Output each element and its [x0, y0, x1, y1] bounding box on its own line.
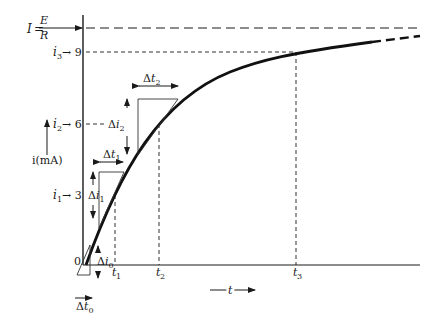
- svg-text:→ 6: → 6: [62, 118, 82, 131]
- svg-text:i(mA): i(mA): [32, 154, 62, 167]
- current-curve-diagram: I = E R i 3 → 9 i 2 → 6 i 1 → 3 i(mA) 0 …: [0, 0, 444, 317]
- svg-text:R: R: [39, 29, 48, 42]
- current-curve: [86, 42, 372, 265]
- svg-text:Δt0: Δt0: [76, 300, 93, 315]
- svg-text:→ 3: → 3: [62, 189, 82, 202]
- svg-text:Δi1: Δi1: [88, 189, 105, 204]
- svg-text:E: E: [39, 14, 48, 27]
- svg-text:Δt1: Δt1: [103, 148, 120, 163]
- svg-text:I: I: [26, 22, 32, 36]
- svg-text:Δi0: Δi0: [97, 255, 114, 270]
- svg-text:2: 2: [160, 272, 165, 281]
- svg-text:Δt2: Δt2: [143, 72, 160, 87]
- svg-text:3: 3: [297, 272, 302, 281]
- svg-text:1: 1: [116, 272, 121, 281]
- axes: [83, 15, 420, 265]
- labels: I = E R i 3 → 9 i 2 → 6 i 1 → 3 i(mA) 0 …: [26, 14, 302, 315]
- svg-text:t: t: [228, 284, 233, 297]
- svg-text:0: 0: [74, 255, 81, 268]
- curve-extension: [372, 36, 420, 42]
- svg-text:→ 9: → 9: [62, 46, 82, 59]
- svg-text:Δi2: Δi2: [108, 118, 125, 133]
